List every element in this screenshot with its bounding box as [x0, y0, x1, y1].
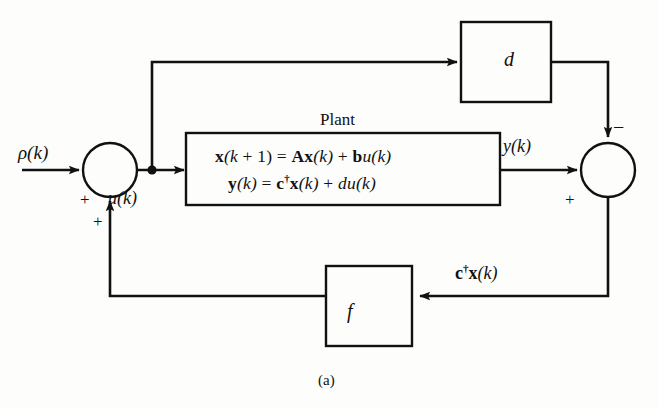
- label-plant-title: Plant: [320, 110, 355, 130]
- eq1-one: 1): [257, 146, 272, 166]
- eq1-b: b: [352, 146, 362, 166]
- feedback-x-symbol: x: [469, 263, 478, 283]
- label-feedback-signal: c†x(k): [455, 262, 498, 284]
- eq1-x2: x: [304, 146, 313, 166]
- block-diagram: ρ(k) u(k) y(k) Plant d f c†x(k) x(k + 1)…: [0, 0, 659, 409]
- figure-caption: (a): [318, 372, 335, 389]
- eq2-x: x: [290, 173, 299, 193]
- eq2-k: (k): [237, 173, 257, 193]
- wire-output-feedback: [420, 197, 608, 296]
- eq1-k2: (k): [313, 146, 333, 166]
- feedback-c-symbol: c: [455, 263, 463, 283]
- summing-junction-output: [581, 143, 635, 197]
- wire-feedforward-to-summer: [551, 62, 608, 137]
- wire-feedback-to-summer: [110, 201, 326, 296]
- sign-input-summer-reference: +: [80, 190, 90, 210]
- diagram-canvas: [0, 0, 659, 409]
- eq1-arg: (k: [224, 146, 238, 166]
- label-feedback-gain: f: [347, 300, 353, 323]
- eq2-d: d: [338, 173, 347, 193]
- plant-equation-state: x(k + 1) = Ax(k) + bu(k): [215, 146, 391, 167]
- label-control-signal: u(k): [108, 188, 137, 209]
- eq2-c: c: [276, 173, 284, 193]
- block-feedback-gain: [326, 266, 412, 346]
- eq2-y: y: [228, 173, 237, 193]
- sign-output-summer-feedforward: −: [613, 116, 624, 139]
- eq2-u: u(k): [347, 173, 376, 193]
- eq1-x: x: [215, 146, 224, 166]
- label-reference-signal: ρ(k): [18, 142, 48, 164]
- sign-input-summer-feedback: +: [93, 212, 103, 232]
- label-output-signal: y(k): [503, 136, 531, 157]
- feedback-index: (k): [478, 263, 498, 283]
- eq1-A: A: [291, 146, 304, 166]
- label-feedforward-gain: d: [504, 48, 514, 71]
- sign-output-summer-plant-output: +: [565, 190, 575, 210]
- eq1-u: u(k): [362, 146, 391, 166]
- block-plant: [186, 133, 500, 205]
- plant-equation-output: y(k) = c†x(k) + du(k): [228, 172, 376, 194]
- eq2-k2: (k): [299, 173, 319, 193]
